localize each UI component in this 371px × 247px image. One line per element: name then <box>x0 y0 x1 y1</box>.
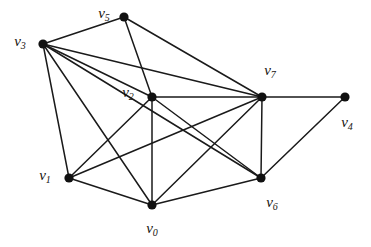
graph-edge <box>43 44 262 97</box>
graph-diagram: v0v1v2v3v4v5v6v7 <box>0 0 371 247</box>
vertex-label-v3: v3 <box>14 34 26 49</box>
graph-vertex-v5 <box>119 12 128 21</box>
graph-vertex-v2 <box>147 92 156 101</box>
graph-edge <box>152 97 261 178</box>
graph-vertex-v1 <box>64 173 73 182</box>
vertex-label-v6: v6 <box>266 195 278 210</box>
graph-vertex-v3 <box>38 39 47 48</box>
graph-edge <box>261 97 262 178</box>
edge-layer <box>43 17 345 205</box>
graph-edge <box>152 178 261 205</box>
vertex-layer <box>38 12 349 209</box>
graph-edge <box>124 17 262 97</box>
graph-vertex-v6 <box>256 173 265 182</box>
vertex-label-v7: v7 <box>264 63 276 78</box>
graph-edge <box>69 178 152 205</box>
vertex-label-v0: v0 <box>146 221 158 236</box>
vertex-label-v1: v1 <box>39 168 51 183</box>
graph-vertex-v4 <box>340 92 349 101</box>
vertex-label-v2: v2 <box>122 85 134 100</box>
graph-edge <box>43 17 124 44</box>
graph-vertex-v0 <box>147 200 156 209</box>
vertex-label-v4: v4 <box>341 115 353 130</box>
graph-edge <box>69 97 262 178</box>
graph-edge <box>261 97 345 178</box>
graph-vertex-v7 <box>257 92 266 101</box>
graph-canvas <box>0 0 371 247</box>
vertex-label-v5: v5 <box>98 6 110 21</box>
graph-edge <box>152 97 262 205</box>
graph-edge <box>69 97 152 178</box>
